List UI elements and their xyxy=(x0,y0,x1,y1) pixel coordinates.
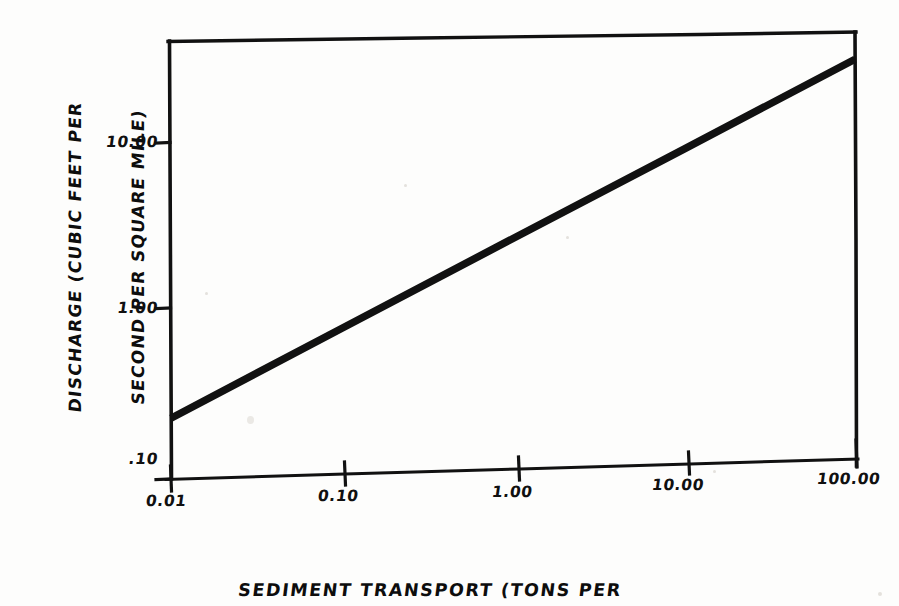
axis-spine-right xyxy=(855,32,857,466)
x-tick-mark-0_10 xyxy=(345,462,346,485)
x-tick-mark-100_00 xyxy=(856,440,857,467)
x-tick-mark-10_00 xyxy=(689,452,690,474)
figure-canvas: DISCHARGE (CUBIC FEET PER SECOND PER SQU… xyxy=(0,0,899,606)
axis-spine-top xyxy=(168,32,856,42)
x-tick-mark-1_00 xyxy=(519,457,520,480)
y-tick-mark-0_1 xyxy=(156,479,171,480)
data-series-line xyxy=(171,59,855,418)
axis-spine-left xyxy=(170,41,172,479)
x-tick-mark-0_01 xyxy=(171,466,172,491)
plot-area xyxy=(0,0,899,606)
axis-spine-bottom xyxy=(166,459,858,480)
y-tick-mark-1 xyxy=(156,308,171,309)
y-tick-mark-10 xyxy=(156,143,170,144)
